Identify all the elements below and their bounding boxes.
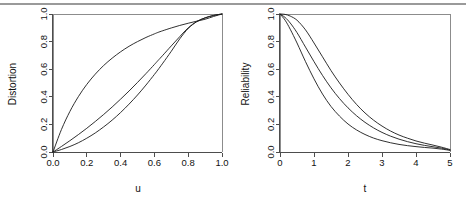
left-x-axis-title: u [135,183,141,194]
right-y-tick-labels: 0.00.20.40.60.81.0 [265,7,276,158]
x-tick-label: 0.4 [114,157,127,168]
y-tick-label: 1.0 [38,7,49,20]
y-tick-label: 1.0 [265,7,276,20]
right-curve-group [280,14,450,150]
x-tick-label: 2 [345,157,350,168]
y-tick-label: 0.2 [38,118,49,131]
right-x-axis-title: t [364,183,367,194]
x-tick-label: 4 [413,157,418,168]
curve-mid-reliability [280,14,450,150]
left-plot-panel: 0.00.20.40.60.81.0 0.00.20.40.60.81.0 u … [0,0,233,202]
curve-near-identity-distortion [53,14,222,152]
right-x-tick-labels: 012345 [277,157,452,168]
right-axes [276,14,451,157]
x-tick-label: 0.8 [182,157,195,168]
left-y-axis-title: Distortion [7,63,18,105]
right-plot-panel: 012345 0.00.20.40.60.81.0 t Reliability [233,0,466,202]
figure-canvas: 0.00.20.40.60.81.0 0.00.20.40.60.81.0 u … [0,0,466,202]
x-tick-label: 1 [311,157,316,168]
x-tick-label: 5 [447,157,452,168]
y-tick-label: 0.0 [265,145,276,158]
left-y-tick-labels: 0.00.20.40.60.81.0 [38,7,49,158]
y-tick-label: 0.4 [38,90,49,103]
y-tick-label: 0.0 [38,145,49,158]
y-tick-label: 0.6 [265,63,276,76]
x-tick-label: 3 [379,157,384,168]
left-curve-group [53,14,222,152]
x-tick-label: 1.0 [215,157,228,168]
y-tick-label: 0.2 [265,118,276,131]
x-tick-label: 0 [277,157,282,168]
right-y-axis-title: Reliability [240,63,251,106]
y-tick-label: 0.8 [265,35,276,48]
left-x-tick-labels: 0.00.20.40.60.81.0 [46,157,228,168]
curve-heavy-tail-reliability [280,14,450,150]
y-tick-label: 0.6 [38,63,49,76]
curve-fast-decay-reliability [280,14,450,150]
x-tick-label: 0.6 [148,157,161,168]
y-tick-label: 0.8 [38,35,49,48]
right-plot-box [280,14,450,152]
x-tick-label: 0.2 [80,157,93,168]
y-tick-label: 0.4 [265,90,276,103]
